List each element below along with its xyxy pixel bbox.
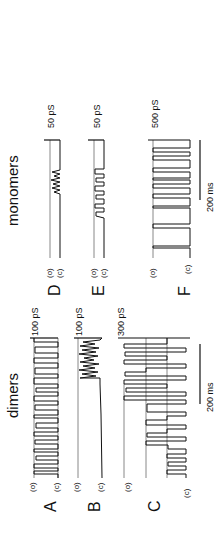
trace-e xyxy=(95,140,104,258)
trace-b xyxy=(79,338,102,478)
traces-svg xyxy=(0,0,219,544)
trace-d xyxy=(51,140,60,258)
trace-a xyxy=(34,338,58,478)
trace-c xyxy=(124,338,186,478)
trace-f xyxy=(153,140,190,258)
single-channel-recordings-figure: dimers monomers A B C (o) (c) (o) (c) (o… xyxy=(0,0,219,544)
